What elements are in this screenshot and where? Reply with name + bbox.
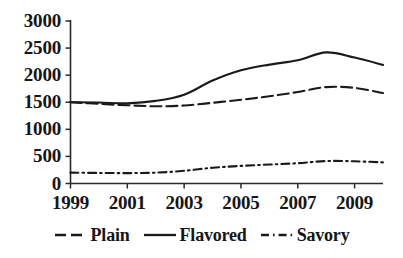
x-axis-tick-label: 2007 — [267, 192, 329, 214]
legend-swatch-solid — [143, 228, 177, 242]
y-axis-tick-label: 1000 — [3, 118, 61, 140]
y-axis-tick-label: 1500 — [3, 91, 61, 113]
x-axis-tick-label: 2005 — [210, 192, 272, 214]
x-axis-tick-label: 2009 — [324, 192, 386, 214]
x-axis-tick-label: 1999 — [40, 192, 102, 214]
legend-label: Flavored — [180, 225, 247, 246]
y-axis-tick-label: 2500 — [3, 37, 61, 59]
legend-item-plain[interactable]: Plain — [54, 225, 130, 246]
line-chart-figure: 300025002000150010005000 199920012003200… — [0, 0, 403, 258]
y-axis-tick-label: 500 — [3, 145, 61, 167]
x-axis-tick-label: 2001 — [96, 192, 158, 214]
y-axis-tick-label: 2000 — [3, 64, 61, 86]
y-axis-tick-label: 3000 — [3, 10, 61, 32]
axis-lines — [71, 20, 384, 184]
legend-swatch-dash-dot — [260, 228, 294, 242]
legend-label: Savory — [297, 225, 350, 246]
data-series-layer — [71, 52, 384, 173]
x-axis-tick-label: 2003 — [153, 192, 215, 214]
legend-item-flavored[interactable]: Flavored — [143, 225, 247, 246]
series-line-flavored — [71, 52, 384, 103]
series-line-savory — [71, 161, 384, 173]
legend-label: Plain — [91, 225, 130, 246]
legend-swatch-dashed — [54, 228, 88, 242]
legend-item-savory[interactable]: Savory — [260, 225, 350, 246]
chart-legend: PlainFlavoredSavory — [0, 221, 403, 249]
